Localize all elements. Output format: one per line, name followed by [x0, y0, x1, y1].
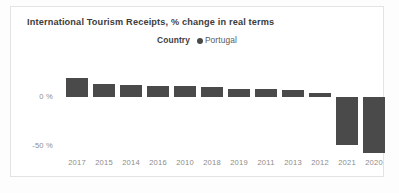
chart-card: International Tourism Receipts, % change…	[10, 6, 384, 177]
x-axis-tick-label: 2010	[171, 158, 199, 167]
bar[interactable]	[201, 87, 223, 97]
bar[interactable]	[363, 97, 385, 153]
bar[interactable]	[228, 89, 250, 97]
screenshot-root: International Tourism Receipts, % change…	[0, 0, 399, 193]
bar[interactable]	[282, 90, 304, 97]
x-axis-tick-label: 2016	[144, 158, 172, 167]
x-axis-tick-label: 2011	[252, 158, 280, 167]
bar[interactable]	[309, 93, 331, 97]
bar[interactable]	[66, 78, 88, 97]
x-axis-tick-label: 2013	[279, 158, 307, 167]
x-axis-tick-label: 2018	[198, 158, 226, 167]
x-axis-tick-label: 2020	[360, 158, 388, 167]
bar[interactable]	[147, 86, 169, 97]
x-axis-tick-label: 2012	[306, 158, 334, 167]
y-axis-tick-label: -50 %	[13, 141, 53, 150]
x-axis-tick-label: 2014	[117, 158, 145, 167]
bar[interactable]	[93, 84, 115, 97]
y-axis-tick-label: 0 %	[13, 92, 53, 101]
bar[interactable]	[174, 86, 196, 97]
x-axis-tick-label: 2015	[90, 158, 118, 167]
plot-area: 0 %-50 %20172015201420162010201820192011…	[11, 7, 385, 178]
x-axis-tick-label: 2021	[333, 158, 361, 167]
bar[interactable]	[120, 85, 142, 97]
bar[interactable]	[255, 89, 277, 97]
bar[interactable]	[336, 97, 358, 145]
x-axis-tick-label: 2017	[63, 158, 91, 167]
x-axis-tick-label: 2019	[225, 158, 253, 167]
